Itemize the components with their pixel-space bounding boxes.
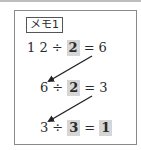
arrow-icon: [49, 56, 92, 81]
arrows-layer: [0, 0, 141, 150]
arrow-icon: [49, 96, 92, 121]
